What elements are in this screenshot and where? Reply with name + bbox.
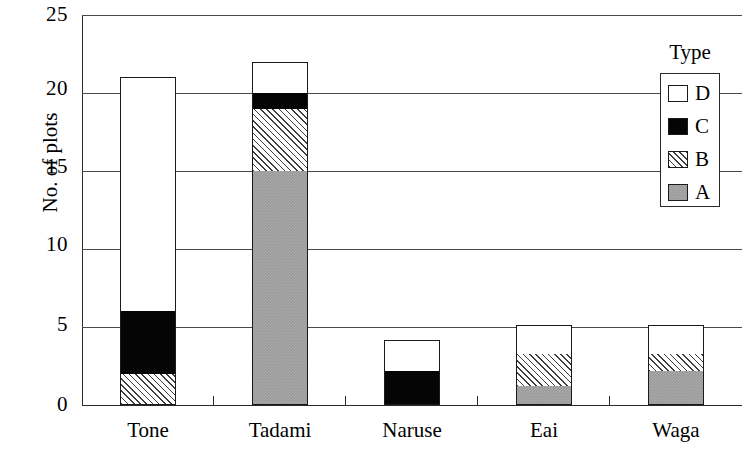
stacked-bar-tone[interactable]	[120, 77, 176, 405]
bar-segment-tadami-B[interactable]	[252, 109, 308, 171]
bar-segment-waga-B[interactable]	[648, 354, 704, 371]
legend-item-B[interactable]: B	[668, 148, 709, 170]
legend-label-C: C	[695, 116, 709, 137]
x-label-naruse: Naruse	[352, 418, 472, 443]
y-tick-label-5: 5	[22, 314, 68, 335]
stacked-bar-tadami[interactable]	[252, 62, 308, 405]
bar-segment-tadami-D[interactable]	[252, 62, 308, 93]
legend-item-D[interactable]: D	[668, 82, 710, 104]
x-label-eai: Eai	[484, 418, 604, 443]
bar-group-naruse	[384, 15, 440, 405]
bar-segment-tone-D[interactable]	[120, 77, 176, 311]
legend-swatch-B-icon	[668, 151, 688, 168]
bar-segment-naruse-C[interactable]	[384, 371, 440, 405]
legend-title: Type	[652, 40, 728, 65]
legend-item-C[interactable]: C	[668, 115, 709, 137]
bar-segment-tadami-A[interactable]	[252, 171, 308, 405]
y-tick-label-10: 10	[22, 234, 68, 255]
bar-segment-tadami-C[interactable]	[252, 93, 308, 109]
bar-segment-eai-A[interactable]	[516, 386, 572, 405]
legend-swatch-A-icon	[668, 184, 688, 201]
legend-swatch-D-icon	[668, 85, 688, 102]
chart-page: No. of plots 25 20 15 10 5 0	[0, 0, 747, 455]
y-tick-label-25: 25	[22, 4, 68, 25]
stacked-bar-waga[interactable]	[648, 325, 704, 405]
bar-group-tadami	[252, 15, 308, 405]
bar-group-tone	[120, 15, 176, 405]
legend-swatch-C-icon	[668, 118, 688, 135]
x-tick-2	[345, 396, 346, 405]
y-tick-label-20: 20	[22, 78, 68, 99]
x-tick-4	[609, 396, 610, 405]
bar-segment-naruse-D[interactable]	[384, 340, 440, 371]
x-tick-1	[213, 396, 214, 405]
x-label-tone: Tone	[88, 418, 208, 443]
bar-segment-eai-D[interactable]	[516, 325, 572, 353]
plot-area	[82, 15, 742, 405]
stacked-bar-naruse[interactable]	[384, 340, 440, 406]
legend-item-A[interactable]: A	[668, 181, 710, 203]
bar-segment-tone-B[interactable]	[120, 374, 176, 405]
bar-group-eai	[516, 15, 572, 405]
legend-label-A: A	[695, 182, 710, 203]
bar-segment-waga-A[interactable]	[648, 371, 704, 405]
legend-box: D C B A	[660, 73, 720, 207]
bar-segment-eai-B[interactable]	[516, 354, 572, 387]
legend-label-B: B	[695, 149, 709, 170]
x-label-waga: Waga	[616, 418, 736, 443]
bar-segment-waga-D[interactable]	[648, 325, 704, 353]
y-tick-label-0: 0	[22, 394, 68, 415]
x-axis-line	[82, 405, 742, 406]
bar-segment-tone-C[interactable]	[120, 311, 176, 373]
x-tick-3	[477, 396, 478, 405]
y-tick-label-15: 15	[22, 156, 68, 177]
x-label-tadami: Tadami	[220, 418, 340, 443]
stacked-bar-eai[interactable]	[516, 325, 572, 405]
legend-label-D: D	[695, 83, 710, 104]
